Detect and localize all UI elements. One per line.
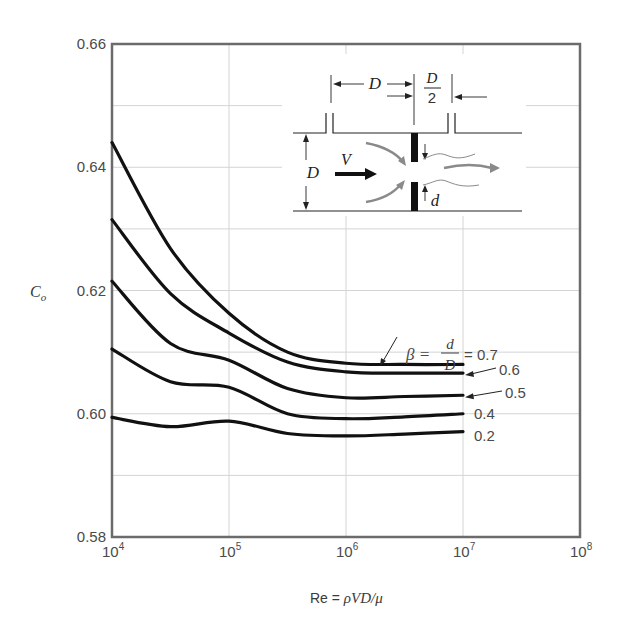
curve-beta-0-2 [112, 417, 463, 435]
label-arrow [471, 391, 502, 396]
x-tick-label: 107 [453, 541, 476, 560]
beta-value: = 0.7 [464, 346, 498, 363]
orifice-plate-top [411, 133, 418, 162]
beta-numerator: d [446, 336, 454, 352]
svg-text:β =: β = [405, 345, 430, 364]
label-arrow [471, 368, 496, 374]
dim-D-top: D [368, 74, 382, 93]
beta-denominator: D [444, 357, 456, 373]
x-axis-ticks: 104105106107108 [102, 541, 593, 560]
orifice-coefficient-chart: 0.580.600.620.640.66 104105106107108 0.6… [0, 0, 619, 631]
x-tick-label: 108 [570, 541, 593, 560]
dim-half-num: D [426, 70, 438, 86]
curve-label-0-5: 0.5 [505, 384, 526, 401]
arrow-0-7 [382, 337, 397, 363]
curve-label-0-6: 0.6 [499, 361, 520, 378]
y-tick-label: 0.62 [77, 282, 106, 299]
dim-half-den: 2 [428, 89, 436, 106]
curve-label-0-4: 0.4 [474, 405, 495, 422]
x-tick-label: 105 [219, 541, 242, 560]
dim-D-side: D [306, 163, 320, 182]
orifice-d-label: d [431, 191, 440, 210]
y-tick-label: 0.60 [77, 405, 106, 422]
arrowhead-icon [465, 393, 474, 399]
y-axis-title: Co [30, 283, 47, 303]
y-axis-ticks: 0.580.600.620.640.66 [77, 35, 106, 545]
curve-labels: 0.60.50.40.2 [465, 361, 526, 444]
x-tick-label: 106 [336, 541, 359, 560]
curve-label-0-2: 0.2 [474, 427, 495, 444]
orifice-plate-bottom [411, 182, 418, 211]
beta-annotation: β = d D = 0.7 [380, 336, 498, 373]
x-axis-title: Re = ρVD/μ [310, 590, 383, 606]
inset-background [282, 54, 526, 216]
x-tick-label: 104 [102, 541, 125, 560]
y-tick-label: 0.64 [77, 158, 106, 175]
arrowhead-icon [465, 371, 474, 377]
y-tick-label: 0.66 [77, 35, 106, 52]
